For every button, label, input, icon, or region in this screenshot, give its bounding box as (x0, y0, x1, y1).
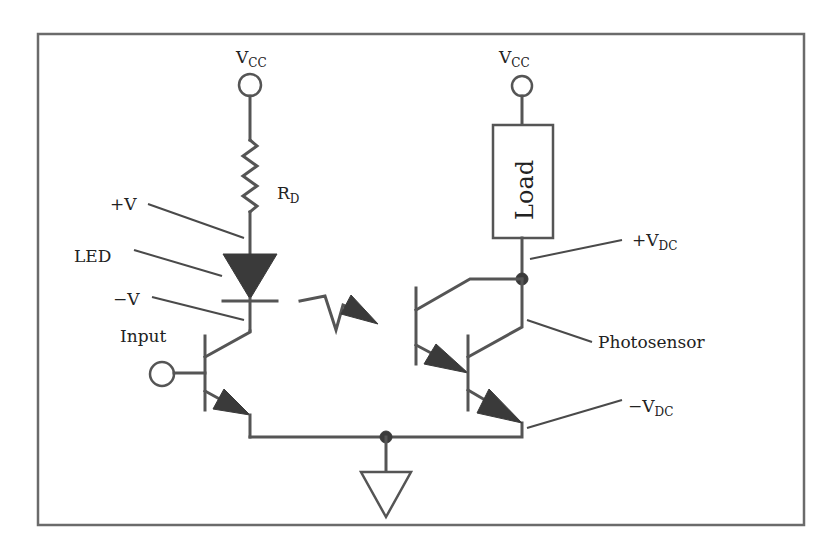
plus-v-callout (148, 204, 244, 238)
plus-vdc-callout (530, 240, 622, 259)
resistor-rd-icon (243, 140, 257, 212)
vcc-right-circle-icon (512, 76, 532, 96)
emitter-arrow-2-icon (477, 389, 522, 423)
input-transistor (150, 331, 250, 437)
vcc-left-circle-icon (239, 74, 261, 96)
diagram-frame (38, 34, 804, 525)
photosensor-callout (527, 320, 592, 342)
plus-v-label: +V (110, 194, 137, 214)
vcc-right-terminal: VCC (498, 47, 532, 96)
svg-text:VCC: VCC (498, 47, 530, 70)
emitter-arrow-1-icon (424, 344, 468, 373)
minus-vdc-label: −VDC (628, 396, 673, 419)
photosensor-darlington (416, 279, 522, 423)
load-label: Load (511, 160, 539, 220)
led-diode-icon (223, 254, 277, 299)
minus-v-label: −V (113, 289, 140, 309)
plus-vdc-label: +VDC (632, 230, 677, 253)
ground-icon (361, 472, 411, 517)
emitter-arrow-icon (213, 389, 250, 415)
led-callout (134, 250, 222, 276)
rd-label: RD (277, 183, 299, 206)
vcc-left-terminal: VCC (235, 47, 267, 96)
input-label: Input (120, 326, 166, 346)
optocoupler-diagram: VCC RD +V LED −V Input VCC (0, 0, 838, 557)
photosensor-label: Photosensor (598, 332, 705, 352)
led-label: LED (74, 246, 111, 266)
input-terminal-icon[interactable] (150, 362, 174, 386)
minus-vdc-callout (527, 400, 622, 428)
light-emission-icon (300, 295, 378, 330)
svg-text:VCC: VCC (235, 47, 267, 70)
